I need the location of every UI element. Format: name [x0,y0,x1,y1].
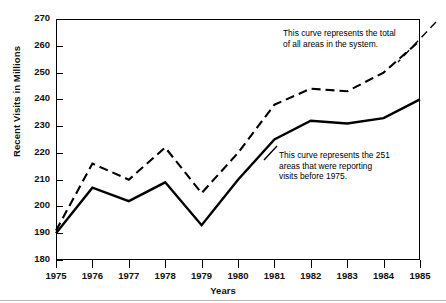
page-rule-divider [0,300,446,301]
chart-figure: Recent Visits in Millions 18019020021022… [0,0,446,303]
x-axis-title: Years [0,285,446,296]
annotation-subset-curve: This curve represents the 251 areas that… [279,150,424,182]
annotation-total-curve: This curve represents the total of all a… [283,28,433,49]
series-line-total [56,40,420,230]
